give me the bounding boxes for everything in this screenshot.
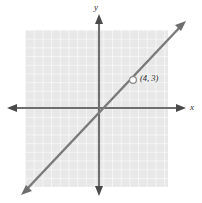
- x-axis-left-arrowhead: [7, 104, 17, 112]
- point-marker: [130, 77, 137, 84]
- x-axis-right-arrowhead: [176, 104, 186, 112]
- point-coordinate-label: (4, 3): [140, 74, 158, 83]
- x-axis-label: x: [190, 103, 194, 112]
- graph-canvas: [0, 0, 202, 203]
- y-axis-label: y: [94, 3, 98, 12]
- y-axis-bottom-arrowhead: [95, 186, 103, 196]
- coordinate-plane-figure: y x (4, 3): [0, 0, 202, 203]
- y-axis-top-arrowhead: [95, 14, 103, 24]
